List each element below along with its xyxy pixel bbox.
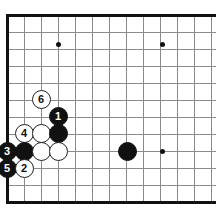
stone-move-number: 1 xyxy=(55,110,61,121)
stone-white-4[interactable]: 4 xyxy=(15,124,34,143)
stone-black-1[interactable]: 1 xyxy=(49,107,68,126)
stone-move-number: 5 xyxy=(4,162,10,173)
stone-black-plain-c[interactable] xyxy=(118,142,137,161)
stone-white-plain-b[interactable] xyxy=(32,142,51,161)
go-board-diagram: 614352 xyxy=(0,0,216,211)
stone-white-plain-c[interactable] xyxy=(49,142,68,161)
board-stones: 614352 xyxy=(0,0,216,211)
stone-move-number: 6 xyxy=(38,93,44,104)
stone-white-2[interactable]: 2 xyxy=(15,159,34,178)
stone-move-number: 2 xyxy=(21,162,27,173)
stone-white-plain-a[interactable] xyxy=(32,124,51,143)
stone-black-plain-a[interactable] xyxy=(49,124,68,143)
stone-black-plain-b[interactable] xyxy=(15,142,34,161)
stone-white-6[interactable]: 6 xyxy=(32,90,51,109)
stone-move-number: 4 xyxy=(21,127,27,138)
stone-move-number: 3 xyxy=(4,145,10,156)
